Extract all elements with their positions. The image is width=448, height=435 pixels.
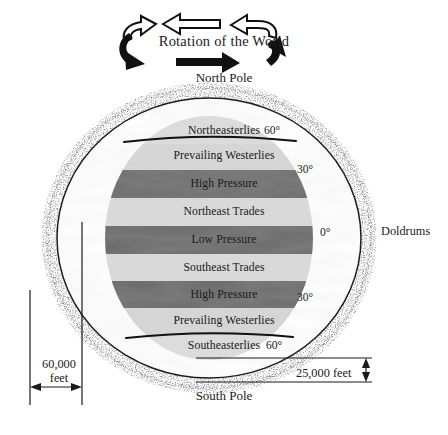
dimension-left-value: 60,000 bbox=[42, 357, 76, 371]
rotation-title: Rotation of the World bbox=[0, 33, 448, 50]
band-label-southeasterlies: Southeasterlies bbox=[0, 339, 448, 352]
dimension-left-label: 60,000 feet bbox=[28, 357, 90, 386]
north-pole-label: North Pole bbox=[0, 70, 448, 86]
rotation-arrow-top-left bbox=[163, 14, 220, 34]
band-label-southeast-trades: Southeast Trades bbox=[0, 261, 448, 274]
doldrums-label: Doldrums bbox=[381, 224, 430, 239]
band-label-prevailing-westerlies-south: Prevailing Westerlies bbox=[0, 314, 448, 327]
band-label-northeasterlies: Northeasterlies bbox=[0, 124, 448, 137]
diagram-canvas: Rotation of the World North Pole South P… bbox=[0, 0, 448, 435]
band-label-prevailing-westerlies-north: Prevailing Westerlies bbox=[0, 149, 448, 162]
dimension-left-unit: feet bbox=[50, 371, 68, 385]
latitude-label-60n: 60° bbox=[264, 124, 280, 136]
band-label-high-pressure-north: High Pressure bbox=[0, 177, 448, 190]
rotation-arrow-bottom-left bbox=[125, 51, 145, 70]
band-label-high-pressure-south: High Pressure bbox=[0, 288, 448, 301]
latitude-label-30n: 30° bbox=[297, 163, 313, 175]
band-label-northeast-trades: Northeast Trades bbox=[0, 205, 448, 218]
dimension-right-label: 25,000 feet bbox=[296, 366, 351, 381]
latitude-label-60s: 60° bbox=[266, 339, 282, 351]
latitude-label-0: 0° bbox=[320, 226, 330, 238]
latitude-label-30s: 30° bbox=[297, 291, 313, 303]
south-pole-label: South Pole bbox=[0, 388, 448, 404]
